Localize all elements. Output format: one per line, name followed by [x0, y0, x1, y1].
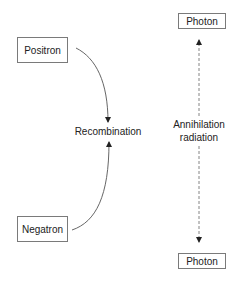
- positron-node: Positron: [17, 37, 68, 63]
- negatron-label: Negatron: [22, 224, 63, 235]
- annihilation-line-1: Annihilation: [164, 118, 234, 131]
- positron-to-recombination-arrow: [76, 48, 108, 122]
- positron-label: Positron: [24, 45, 61, 56]
- recombination-label: Recombination: [68, 125, 148, 138]
- annihilation-line-2: radiation: [164, 131, 234, 144]
- photon-bottom-label: Photon: [186, 256, 218, 267]
- annihilation-radiation-label: Annihilation radiation: [164, 118, 234, 144]
- negatron-node: Negatron: [17, 216, 68, 242]
- photon-bottom-node: Photon: [178, 253, 226, 269]
- photon-top-label: Photon: [186, 16, 218, 27]
- photon-top-node: Photon: [178, 13, 226, 29]
- negatron-to-recombination-arrow: [72, 142, 109, 230]
